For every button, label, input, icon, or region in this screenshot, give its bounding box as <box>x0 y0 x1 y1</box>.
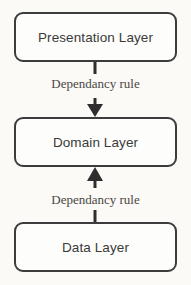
layer-box-presentation-label: Presentation Layer <box>38 30 153 45</box>
layer-box-domain-label: Domain Layer <box>53 135 138 150</box>
layer-box-presentation[interactable]: Presentation Layer <box>14 12 177 62</box>
connector-presentation-to-domain: Dependancy rule <box>0 62 191 117</box>
layered-architecture-diagram: Presentation Layer Dependancy rule Domai… <box>0 0 191 285</box>
layer-box-domain[interactable]: Domain Layer <box>14 117 177 167</box>
layer-box-data[interactable]: Data Layer <box>14 222 177 272</box>
layer-box-data-label: Data Layer <box>62 240 129 255</box>
connector-presentation-to-domain-label: Dependancy rule <box>0 76 191 92</box>
connector-data-to-domain: Dependancy rule <box>0 167 191 222</box>
connector-data-to-domain-label: Dependancy rule <box>0 192 191 208</box>
